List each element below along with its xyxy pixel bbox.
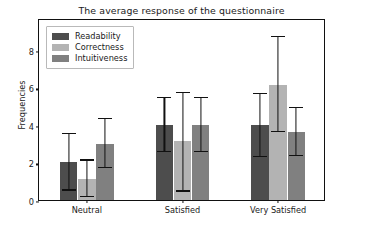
x-tick-label: Very Satisfied (250, 205, 306, 215)
error-bar (174, 18, 192, 200)
legend-label: Correctness (75, 42, 124, 53)
legend-label: Intuitiveness (75, 53, 127, 64)
error-bar-line (259, 94, 260, 157)
chart-legend: ReadabilityCorrectnessIntuitiveness (46, 26, 134, 69)
legend-item-intuitiveness: Intuitiveness (52, 53, 127, 64)
error-bar-cap-upper (62, 133, 76, 134)
error-bar-line (164, 98, 165, 152)
error-bar-cap-lower (62, 189, 76, 190)
error-bar-cap-upper (194, 97, 208, 98)
error-bar-cap-lower (271, 131, 285, 132)
error-bar-line (182, 93, 183, 192)
x-tick-mark (86, 200, 87, 203)
error-bar-cap-upper (80, 159, 94, 160)
error-bar-cap-lower (176, 190, 190, 191)
y-axis-label: Frequencies (17, 45, 27, 165)
error-bar (288, 18, 306, 200)
x-tick-label: Neutral (72, 205, 102, 215)
error-bar-cap-upper (176, 92, 190, 93)
error-bar-cap-lower (289, 155, 303, 156)
chart-figure: The average response of the questionnair… (0, 0, 365, 243)
legend-item-readability: Readability (52, 31, 127, 42)
error-bar-cap-lower (157, 151, 171, 152)
error-bar-line (104, 119, 105, 168)
error-bar-line (86, 161, 87, 198)
error-bar (251, 18, 269, 200)
error-bar-cap-lower (98, 167, 112, 168)
error-bar-line (278, 37, 279, 133)
x-tick-mark (182, 200, 183, 203)
plot-area: Frequencies 02468 NeutralSatisfiedVery S… (38, 19, 325, 201)
error-bar-cap-upper (271, 36, 285, 37)
error-bar-cap-lower (80, 196, 94, 197)
error-bar-cap-lower (253, 156, 267, 157)
error-bar (156, 18, 174, 200)
error-bar (269, 18, 287, 200)
error-bar (192, 18, 210, 200)
legend-label: Readability (75, 31, 121, 42)
error-bar-cap-upper (157, 97, 171, 98)
x-tick-mark (278, 200, 279, 203)
chart-title: The average response of the questionnair… (38, 5, 325, 16)
error-bar-cap-lower (194, 151, 208, 152)
legend-swatch-icon (52, 44, 69, 52)
legend-swatch-icon (52, 55, 69, 63)
x-tick-label: Satisfied (165, 205, 200, 215)
error-bar-cap-upper (289, 107, 303, 108)
error-bar-cap-upper (253, 93, 267, 94)
legend-swatch-icon (52, 33, 69, 41)
error-bar-line (68, 134, 69, 190)
y-tick-mark (36, 201, 39, 202)
error-bar-cap-upper (98, 118, 112, 119)
error-bar-line (200, 98, 201, 152)
error-bar-line (296, 108, 297, 156)
legend-item-correctness: Correctness (52, 42, 127, 53)
